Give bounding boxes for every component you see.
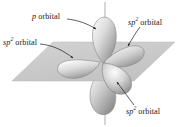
label-p-orbital-word: orbital [38,12,60,21]
label-sp2-bottom-word: orbital [138,107,160,116]
label-sp2-bottom-superscript: 2 [133,105,136,111]
label-sp2-orbital-upper-right: sp2 orbital [128,19,162,27]
label-sp2-topright-superscript: 2 [135,16,138,22]
label-sp2-orbital-left: sp2 orbital [3,39,37,47]
label-p-orbital-symbol: p [32,12,36,21]
label-p-orbital: p orbital [32,13,60,21]
label-sp2-topright-word: orbital [140,18,162,27]
label-sp2-left-superscript: 2 [10,36,13,42]
leader-line-p-orbital [67,19,96,29]
orbital-diagram-figure: p orbital sp2 orbital sp2 orbital sp2 or… [0,0,186,127]
label-sp2-orbital-lower-right: sp2 orbital [126,108,160,116]
label-sp2-left-word: orbital [15,38,37,47]
